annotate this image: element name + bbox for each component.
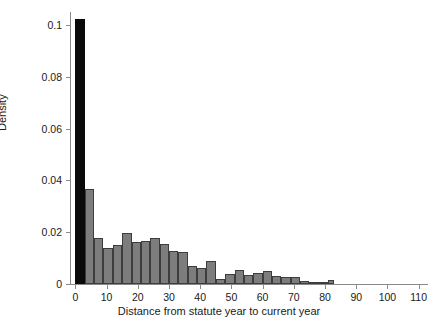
plot-area: 00.020.040.060.080.1 0102030405060708090… bbox=[44, 8, 432, 284]
x-tick-label: 30 bbox=[163, 291, 175, 303]
x-tick-mark bbox=[387, 285, 388, 289]
histogram-bar bbox=[85, 189, 94, 284]
x-tick-label: 110 bbox=[410, 291, 427, 303]
histogram-bar bbox=[206, 261, 215, 284]
histogram-bar bbox=[122, 233, 131, 284]
x-tick-label: 100 bbox=[379, 291, 397, 303]
x-axis-title: Distance from statute year to current ye… bbox=[0, 305, 438, 317]
x-tick-label: 20 bbox=[132, 291, 144, 303]
x-tick-mark bbox=[200, 285, 201, 289]
histogram-bar bbox=[235, 270, 244, 284]
y-tick-mark bbox=[66, 284, 70, 285]
x-tick-label: 60 bbox=[257, 291, 269, 303]
x-tick-label: 10 bbox=[101, 291, 113, 303]
x-tick-label: 70 bbox=[288, 291, 300, 303]
histogram-bar bbox=[75, 19, 84, 284]
histogram-bar bbox=[291, 277, 300, 284]
histogram-bar bbox=[160, 244, 169, 284]
histogram-bar bbox=[169, 251, 178, 284]
histogram-bar bbox=[225, 274, 234, 284]
histogram-bar bbox=[244, 275, 253, 284]
histogram-chart: 00.020.040.060.080.1 0102030405060708090… bbox=[0, 0, 438, 326]
x-tick-label: 50 bbox=[226, 291, 238, 303]
histogram-bar bbox=[309, 282, 318, 284]
x-tick-mark bbox=[75, 285, 76, 289]
x-tick-label: 40 bbox=[194, 291, 206, 303]
histogram-bar bbox=[141, 241, 150, 284]
histogram-bar bbox=[216, 279, 225, 284]
histogram-bar bbox=[253, 273, 262, 284]
x-tick-mark bbox=[356, 285, 357, 289]
histogram-bar bbox=[263, 271, 272, 284]
histogram-bar bbox=[132, 242, 141, 284]
histogram-bar bbox=[272, 276, 281, 284]
histogram-bar bbox=[197, 268, 206, 284]
x-tick-mark bbox=[294, 285, 295, 289]
histogram-bar bbox=[281, 277, 290, 284]
x-tick-mark bbox=[263, 285, 264, 289]
histogram-bar bbox=[178, 252, 187, 284]
histogram-bar bbox=[103, 248, 112, 284]
x-tick-mark bbox=[419, 285, 420, 289]
histogram-bars bbox=[44, 8, 432, 284]
histogram-bar bbox=[319, 282, 328, 284]
histogram-bar bbox=[113, 245, 122, 284]
histogram-bar bbox=[150, 238, 159, 284]
x-tick-label: 80 bbox=[319, 291, 331, 303]
histogram-bar bbox=[300, 281, 309, 284]
y-axis-title: Density bbox=[0, 94, 8, 131]
histogram-bar bbox=[328, 280, 334, 284]
x-tick-label: 0 bbox=[72, 291, 78, 303]
x-axis-line bbox=[66, 284, 428, 285]
x-tick-mark bbox=[169, 285, 170, 289]
x-tick-mark bbox=[107, 285, 108, 289]
x-tick-mark bbox=[231, 285, 232, 289]
histogram-bar bbox=[188, 266, 197, 284]
x-tick-mark bbox=[325, 285, 326, 289]
x-tick-label: 90 bbox=[350, 291, 362, 303]
x-tick-mark bbox=[138, 285, 139, 289]
histogram-bar bbox=[94, 238, 103, 284]
